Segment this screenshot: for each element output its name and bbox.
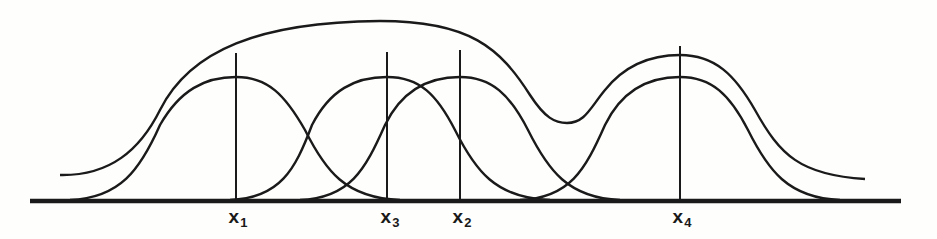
label-x1: x1 [229, 206, 248, 230]
envelope-curve [60, 21, 865, 179]
gaussian-x3 [230, 77, 550, 200]
label-x3: x3 [381, 206, 400, 230]
label-x1-base: x [229, 206, 240, 227]
label-x4-base: x [673, 206, 684, 227]
label-x1-subscript: 1 [240, 215, 247, 230]
label-x4: x4 [673, 206, 692, 230]
label-x4-subscript: 4 [684, 215, 691, 230]
label-x2-subscript: 2 [464, 215, 471, 230]
label-x3-subscript: 3 [392, 215, 399, 230]
diagram-canvas [0, 0, 937, 239]
label-x3-base: x [381, 206, 392, 227]
label-x2-base: x [453, 206, 464, 227]
label-x2: x2 [453, 206, 472, 230]
gaussian-overlap-diagram: x1 x3 x2 x4 [0, 0, 937, 239]
